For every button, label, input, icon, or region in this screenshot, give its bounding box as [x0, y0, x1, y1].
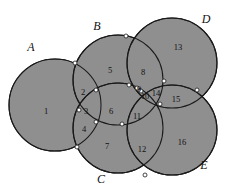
region-label-1: 1 — [44, 106, 48, 116]
region-label-8: 8 — [141, 67, 145, 77]
region-label-15: 15 — [172, 94, 181, 104]
venn-diagram-figure: 12345678910111213141516 ABCDE — [0, 0, 225, 193]
venn-diagram-canvas: 12345678910111213141516 ABCDE — [0, 0, 225, 193]
vertex-A-B-C-mid — [77, 108, 81, 112]
region-label-14: 14 — [152, 88, 161, 98]
region-label-12: 12 — [138, 144, 147, 154]
vertex-B-C-right — [120, 122, 124, 126]
vertex-C-E-bottom — [143, 173, 147, 177]
region-label-7: 7 — [105, 141, 109, 151]
set-label-D: D — [201, 12, 211, 26]
region-label-6: 6 — [109, 106, 113, 116]
vertex-C-D-E-center — [158, 102, 162, 106]
region-label-2: 2 — [81, 87, 85, 97]
region-label-16: 16 — [178, 137, 187, 147]
region-label-5: 5 — [108, 65, 112, 75]
vertex-B-D-lower — [127, 83, 131, 87]
region-label-13: 13 — [174, 42, 183, 52]
set-label-A: A — [26, 40, 35, 54]
set-label-B: B — [93, 19, 101, 33]
region-label-11: 11 — [133, 111, 141, 121]
vertex-A-B-top — [73, 61, 77, 65]
vertex-A-B-C-upper — [94, 88, 98, 92]
circle-group — [9, 18, 217, 175]
vertex-D-E-upper — [162, 79, 166, 83]
set-label-E: E — [199, 158, 208, 172]
vertex-B-D-top — [124, 34, 128, 38]
region-label-10: 10 — [141, 91, 150, 101]
vertex-A-C-bottom — [75, 145, 79, 149]
region-label-3: 3 — [84, 106, 88, 116]
vertex-D-E-right — [195, 88, 199, 92]
set-label-C: C — [97, 172, 106, 186]
vertex-A-B-C-lower — [94, 120, 98, 124]
